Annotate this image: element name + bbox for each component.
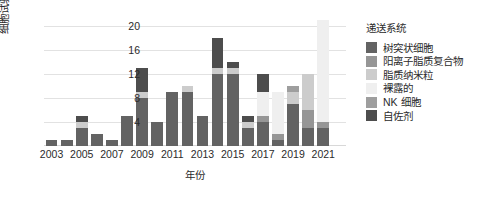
bar-segment bbox=[257, 92, 269, 116]
bar-column bbox=[225, 14, 240, 146]
bar-segment bbox=[302, 74, 314, 110]
x-tick-cell: 2005 bbox=[74, 148, 89, 164]
bar-segment bbox=[76, 128, 88, 146]
stacked-bar bbox=[287, 86, 299, 146]
legend-items: 树突状细胞阳离子脂质复合物脂质纳米粒裸露的NK 细胞自佐剂 bbox=[366, 41, 486, 123]
bar-segment bbox=[227, 74, 239, 146]
legend-item-label: 树突状细胞 bbox=[383, 43, 433, 54]
legend-item[interactable]: 裸露的 bbox=[366, 82, 486, 96]
bar-column bbox=[255, 14, 270, 146]
bar-column bbox=[331, 14, 346, 146]
legend-swatch-icon bbox=[366, 56, 377, 67]
legend-item[interactable]: 自佐剂 bbox=[366, 109, 486, 123]
x-tick-cell: 2011 bbox=[165, 148, 180, 164]
bar-segment bbox=[46, 140, 58, 146]
legend-item-label: 脂质纳米粒 bbox=[383, 70, 433, 81]
x-tick-cell: 2017 bbox=[255, 148, 270, 164]
bar-segment bbox=[317, 128, 329, 146]
bar-series-group bbox=[44, 14, 346, 146]
x-tick-cell: 2013 bbox=[195, 148, 210, 164]
bar-segment bbox=[242, 128, 254, 146]
bar-column bbox=[74, 14, 89, 146]
bar-column bbox=[119, 14, 134, 146]
stacked-bar bbox=[91, 134, 103, 146]
stacked-bar bbox=[121, 116, 133, 146]
x-axis-ticks: 2003200520072009201120132015201720192021 bbox=[44, 148, 346, 164]
bar-column bbox=[210, 14, 225, 146]
legend-swatch-icon bbox=[366, 69, 377, 80]
bar-column bbox=[89, 14, 104, 146]
stacked-bar bbox=[197, 116, 209, 146]
legend-item[interactable]: NK 细胞 bbox=[366, 95, 486, 109]
legend-item-label: 自佐剂 bbox=[383, 111, 413, 122]
stacked-bar bbox=[61, 140, 73, 146]
bar-column bbox=[165, 14, 180, 146]
stacked-bar bbox=[227, 62, 239, 146]
bar-segment bbox=[302, 128, 314, 146]
legend-item[interactable]: 树突状细胞 bbox=[366, 41, 486, 55]
chart-root: 细胞试验数（项） 48121620 2003200520072009201120… bbox=[0, 0, 489, 200]
stacked-bar bbox=[76, 116, 88, 146]
bar-segment bbox=[61, 140, 73, 146]
bar-segment bbox=[302, 110, 314, 128]
bar-segment bbox=[121, 116, 133, 146]
legend: 递送系统 树突状细胞阳离子脂质复合物脂质纳米粒裸露的NK 细胞自佐剂 bbox=[366, 20, 486, 123]
bar-column bbox=[195, 14, 210, 146]
legend-item-label: 裸露的 bbox=[383, 83, 413, 94]
bar-column bbox=[59, 14, 74, 146]
stacked-bar bbox=[46, 140, 58, 146]
bar-column bbox=[286, 14, 301, 146]
x-tick-cell: 2021 bbox=[316, 148, 331, 164]
bar-segment bbox=[182, 92, 194, 146]
x-tick-cell: 2019 bbox=[286, 148, 301, 164]
bar-segment bbox=[136, 98, 148, 146]
bar-column bbox=[180, 14, 195, 146]
x-tick-cell bbox=[331, 148, 346, 164]
plot-area: 细胞试验数（项） bbox=[44, 14, 346, 146]
bar-column bbox=[44, 14, 59, 146]
bar-segment bbox=[212, 38, 224, 68]
bar-column bbox=[301, 14, 316, 146]
stacked-bar bbox=[136, 68, 148, 146]
bar-segment bbox=[136, 68, 148, 92]
bar-segment bbox=[272, 140, 284, 146]
bar-segment bbox=[91, 134, 103, 146]
bar-column bbox=[270, 14, 285, 146]
bar-column bbox=[150, 14, 165, 146]
x-tick-cell: 2015 bbox=[225, 148, 240, 164]
legend-item-label: NK 细胞 bbox=[383, 97, 421, 108]
stacked-bar bbox=[272, 92, 284, 146]
legend-item[interactable]: 脂质纳米粒 bbox=[366, 68, 486, 82]
bar-segment bbox=[287, 104, 299, 146]
bar-segment bbox=[317, 20, 329, 122]
stacked-bar bbox=[182, 86, 194, 146]
stacked-bar bbox=[151, 122, 163, 146]
bar-segment bbox=[151, 122, 163, 146]
legend-swatch-icon bbox=[366, 42, 377, 53]
bar-segment bbox=[106, 140, 118, 146]
legend-swatch-icon bbox=[366, 110, 377, 121]
bar-segment bbox=[272, 92, 284, 134]
bar-column bbox=[240, 14, 255, 146]
x-axis-label: 年份 bbox=[44, 167, 346, 182]
bar-segment bbox=[287, 92, 299, 104]
bar-column bbox=[104, 14, 119, 146]
bar-column bbox=[316, 14, 331, 146]
x-tick-cell: 2009 bbox=[135, 148, 150, 164]
bar-column bbox=[135, 14, 150, 146]
bar-segment bbox=[166, 92, 178, 146]
bar-segment bbox=[212, 74, 224, 146]
legend-swatch-icon bbox=[366, 83, 377, 94]
x-tick-cell: 2007 bbox=[104, 148, 119, 164]
legend-title: 递送系统 bbox=[366, 20, 486, 35]
bar-segment bbox=[257, 122, 269, 146]
legend-item[interactable]: 阳离子脂质复合物 bbox=[366, 55, 486, 69]
stacked-bar bbox=[257, 74, 269, 146]
stacked-bar bbox=[302, 74, 314, 146]
y-axis-label: 细胞试验数（项） bbox=[0, 0, 11, 54]
stacked-bar bbox=[106, 140, 118, 146]
stacked-bar bbox=[166, 92, 178, 146]
stacked-bar bbox=[212, 38, 224, 146]
bar-segment bbox=[197, 116, 209, 146]
legend-item-label: 阳离子脂质复合物 bbox=[383, 56, 463, 67]
